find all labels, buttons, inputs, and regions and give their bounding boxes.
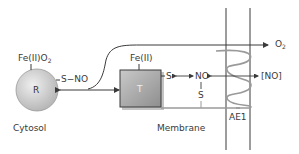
diagram-canvas: Fe(II)O2 S−NO R Fe(II) T S NO S [NO] O2 … xyxy=(0,0,299,154)
membrane-lipid-bilayer xyxy=(226,8,250,150)
free-no-label: [NO] xyxy=(261,72,282,81)
cytosol-label: Cytosol xyxy=(13,124,46,133)
fe-ii-label: Fe(II) xyxy=(130,54,153,63)
fe-ii-o2-label: Fe(II)O2 xyxy=(18,54,51,64)
t-label: T xyxy=(137,85,143,94)
r-label: R xyxy=(33,86,39,95)
membrane-label: Membrane xyxy=(157,124,205,133)
t-s-label: S xyxy=(166,72,172,81)
ae1-label: AE1 xyxy=(229,113,247,122)
no-label: NO xyxy=(195,72,209,81)
o2-label: O2 xyxy=(275,40,286,50)
no-s-label: S xyxy=(198,91,204,100)
ae1-helix-coil xyxy=(216,50,251,108)
r-s-no-label: S−NO xyxy=(61,75,88,84)
